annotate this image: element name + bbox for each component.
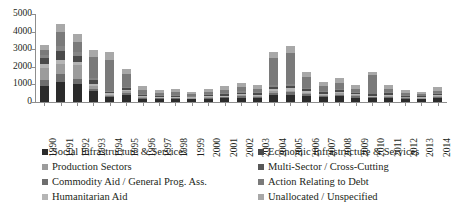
bar-segment	[56, 74, 65, 82]
bar-2001	[220, 86, 229, 102]
bar-1991	[56, 24, 65, 102]
legend-item[interactable]: Social Infrastructure & Services	[42, 144, 207, 159]
bar-segment	[122, 74, 131, 86]
bar-1997	[155, 90, 164, 102]
bar-2007	[319, 82, 328, 102]
legend-item[interactable]: Multi-Sector / Cross-Cutting	[258, 159, 419, 174]
legend-column-right: Economic Infrastructure & ServicesMulti-…	[258, 144, 419, 204]
bar-segment	[56, 51, 65, 60]
bar-2005	[286, 46, 295, 102]
legend-column-left: Social Infrastructure & ServicesProducti…	[42, 144, 207, 204]
bar-segment	[73, 84, 82, 102]
legend-item[interactable]: Production Sectors	[42, 159, 207, 174]
bar-segment	[368, 75, 377, 93]
legend-label: Production Sectors	[52, 161, 132, 173]
legend-swatch-icon	[258, 179, 264, 185]
y-axis-tick-label: 1000	[2, 79, 32, 88]
bar-2009	[351, 85, 360, 102]
bar-segment	[73, 34, 82, 42]
legend-label: Humanitarian Aid	[52, 191, 128, 203]
bar-segment	[269, 95, 278, 102]
bar-segment	[286, 53, 295, 84]
bar-1998	[171, 89, 180, 102]
bar-1996	[138, 86, 147, 102]
legend-label: Economic Infrastructure & Services	[268, 146, 419, 158]
legend-swatch-icon	[42, 149, 48, 155]
chart-figure: 010002000300040005000 199019911992199319…	[0, 0, 452, 215]
legend-label: Social Infrastructure & Services	[52, 146, 187, 158]
bar-segment	[105, 52, 114, 59]
legend-swatch-icon	[258, 194, 264, 200]
stacked-bar-chart: 010002000300040005000 199019911992199319…	[0, 0, 452, 140]
x-axis-labels: 1990199119921993199419951996199719981999…	[36, 106, 446, 140]
bar-segment	[56, 32, 65, 46]
legend-swatch-icon	[42, 194, 48, 200]
y-axis-labels: 010002000300040005000	[0, 0, 32, 140]
bar-segment	[89, 91, 98, 102]
legend-label: Multi-Sector / Cross-Cutting	[268, 161, 389, 173]
bar-2006	[302, 72, 311, 102]
legend-swatch-icon	[258, 164, 264, 170]
bar-segment	[40, 68, 49, 81]
bar-2008	[335, 78, 344, 102]
bar-1994	[105, 52, 114, 102]
plot-area	[36, 14, 446, 102]
bar-segment	[122, 95, 131, 102]
legend-item[interactable]: Action Relating to Debt	[258, 174, 419, 189]
bar-2003	[253, 85, 262, 102]
bar-segment	[302, 77, 311, 88]
bar-segment	[73, 65, 82, 79]
bar-1992	[73, 34, 82, 102]
legend-label: Commodity Aid / General Prog. Ass.	[52, 176, 207, 188]
legend-item[interactable]: Humanitarian Aid	[42, 189, 207, 204]
bar-segment	[105, 60, 114, 91]
bar-2010	[368, 72, 377, 102]
legend-label: Action Relating to Debt	[268, 176, 369, 188]
bar-2011	[384, 85, 393, 102]
bar-segment	[40, 86, 49, 102]
legend-swatch-icon	[42, 164, 48, 170]
legend-swatch-icon	[258, 149, 264, 155]
y-axis-tick-label: 4000	[2, 27, 32, 36]
bar-2004	[269, 52, 278, 102]
bar-2012	[401, 90, 410, 102]
y-axis-tick-label: 5000	[2, 9, 32, 18]
bar-segment	[269, 58, 278, 85]
legend-item[interactable]: Commodity Aid / General Prog. Ass.	[42, 174, 207, 189]
bar-segment	[56, 82, 65, 102]
legend-item[interactable]: Economic Infrastructure & Services	[258, 144, 419, 159]
bar-1999	[187, 92, 196, 102]
bar-1993	[89, 50, 98, 102]
bar-2013	[417, 92, 426, 102]
legend-label: Unallocated / Unspecified	[268, 191, 378, 203]
bar-segment	[89, 50, 98, 58]
legend-item[interactable]: Unallocated / Unspecified	[258, 189, 419, 204]
y-axis-tick-label: 2000	[2, 62, 32, 71]
y-axis-tick-label: 3000	[2, 44, 32, 53]
bar-segment	[286, 95, 295, 102]
chart-legend: Social Infrastructure & ServicesProducti…	[0, 144, 452, 212]
bar-segment	[56, 24, 65, 32]
bar-segment	[89, 57, 98, 78]
bar-segment	[73, 42, 82, 52]
legend-swatch-icon	[42, 179, 48, 185]
bar-segment	[56, 64, 65, 73]
bar-1990	[40, 45, 49, 102]
bar-1995	[122, 69, 131, 102]
bar-2014	[433, 87, 442, 102]
bar-2000	[204, 89, 213, 102]
y-axis-tick-label: 0	[2, 97, 32, 106]
bar-2002	[237, 83, 246, 102]
